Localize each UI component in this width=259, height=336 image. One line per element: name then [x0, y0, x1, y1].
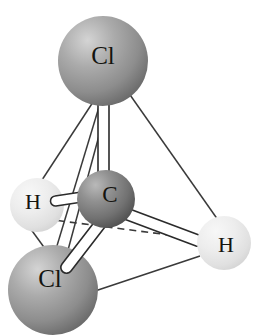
atom-cl-top[interactable]: Cl — [58, 16, 148, 106]
atom-label-cl-top: Cl — [91, 42, 115, 69]
atom-h-right[interactable]: H — [197, 216, 251, 270]
edge-cltop-hright — [128, 92, 218, 220]
atom-label-h-right: H — [218, 232, 234, 257]
atom-carbon-center[interactable]: C — [77, 170, 135, 228]
molecule-diagram: Cl C — [0, 0, 259, 336]
atom-label-carbon: C — [102, 182, 117, 207]
bond-c-h-right — [124, 208, 203, 246]
atom-label-cl-bottom: Cl — [38, 265, 62, 292]
atom-label-h-left: H — [25, 189, 41, 214]
molecule-figure: Cl C — [0, 0, 259, 336]
